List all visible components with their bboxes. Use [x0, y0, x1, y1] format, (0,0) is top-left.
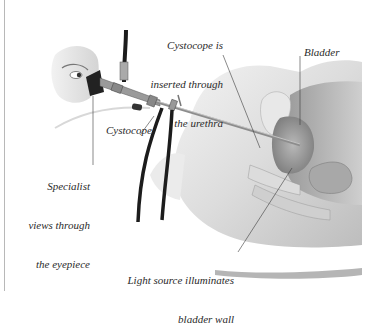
label-line: Cystocope is — [145, 39, 223, 52]
label-line: the urethra — [145, 117, 223, 130]
label-line: inserted through — [145, 78, 223, 91]
label-cystoscope-inserted: Cystocope is inserted through the urethr… — [145, 13, 223, 156]
label-line: Specialist — [20, 180, 90, 193]
label-light-source: Light source illuminates bladder wall — [120, 248, 234, 327]
label-line: views through — [20, 219, 90, 232]
label-specialist: Specialist views through the eyepiece — [20, 154, 90, 297]
label-line: bladder wall — [120, 313, 234, 326]
label-cystoscope: Cystocope — [106, 124, 152, 137]
label-bladder: Bladder — [304, 46, 339, 59]
uterus-organ — [309, 162, 352, 193]
label-line: Light source illuminates — [120, 274, 234, 287]
label-line: the eyepiece — [20, 258, 90, 271]
